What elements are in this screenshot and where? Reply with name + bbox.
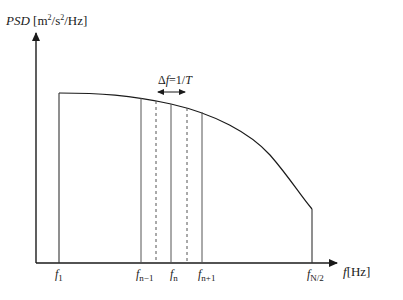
- tick-sub: 1: [58, 273, 63, 283]
- y-axis-unit-mid: /s: [52, 13, 61, 28]
- x-axis-label: f[Hz]: [343, 265, 370, 278]
- y-axis-var: PSD: [6, 13, 30, 28]
- tick-sub: N/2: [310, 273, 324, 283]
- psd-curve: [59, 93, 312, 209]
- tick-label-f-n-plus-1: fn+1: [198, 268, 215, 283]
- tick-label-f-n: fn: [170, 268, 178, 283]
- tick-label-f1: f1: [55, 268, 63, 283]
- psd-diagram: [0, 0, 403, 300]
- y-axis-unit-prefix: [m: [33, 13, 47, 28]
- delta-T: T: [185, 73, 192, 87]
- tick-sub: n: [173, 273, 178, 283]
- y-axis-unit-suffix: /Hz]: [64, 13, 87, 28]
- tick-label-f-nyquist: fN/2: [307, 268, 324, 283]
- tick-label-f-n-minus-1: fn−1: [136, 268, 153, 283]
- delta-eq: =1/: [169, 73, 185, 87]
- x-axis-unit: [Hz]: [347, 264, 371, 279]
- delta-symbol: Δ: [158, 73, 166, 87]
- tick-sub: n−1: [139, 273, 153, 283]
- tick-sub: n+1: [201, 273, 215, 283]
- y-axis-label: PSD [m2/s2/Hz]: [6, 14, 87, 27]
- delta-f-label: Δf=1/T: [158, 74, 192, 86]
